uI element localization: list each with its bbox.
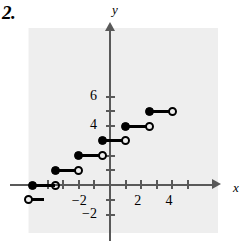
y-tick: [106, 155, 115, 157]
y-tick-label: 6: [90, 88, 97, 104]
open-endpoint-dot: [51, 181, 60, 190]
x-axis-arrow-icon: [212, 179, 221, 189]
plot-panel: [28, 28, 218, 233]
closed-endpoint-dot: [98, 136, 107, 145]
x-tick: [78, 180, 80, 189]
x-axis-label: x: [233, 180, 239, 196]
x-tick: [171, 180, 173, 189]
open-endpoint-dot: [98, 151, 107, 160]
closed-endpoint-dot: [51, 166, 60, 175]
open-endpoint-dot: [168, 107, 177, 116]
closed-endpoint-dot: [28, 181, 37, 190]
closed-endpoint-dot: [121, 122, 130, 131]
y-tick-label: 4: [90, 117, 97, 133]
y-tick: [106, 169, 115, 171]
closed-endpoint-dot: [145, 107, 154, 116]
x-tick: [93, 180, 95, 189]
y-tick: [106, 125, 115, 127]
x-tick: [62, 180, 64, 189]
y-tick: [106, 110, 115, 112]
x-tick: [140, 180, 142, 189]
problem-number: 2.: [2, 2, 15, 24]
y-axis-label: y: [112, 2, 118, 18]
y-axis: [109, 24, 111, 241]
y-tick: [106, 199, 115, 201]
x-tick: [125, 180, 127, 189]
y-tick-label: −2: [82, 206, 97, 222]
y-axis-arrow-icon: [105, 22, 115, 31]
x-tick: [187, 180, 189, 189]
open-endpoint-dot: [74, 166, 83, 175]
y-tick: [106, 96, 115, 98]
x-tick: [156, 180, 158, 189]
x-tick-label: 2: [134, 193, 141, 209]
x-tick-label: 4: [165, 193, 172, 209]
y-tick: [106, 214, 115, 216]
open-endpoint-dot: [145, 122, 154, 131]
figure: 2. x y −22464−2: [0, 0, 246, 244]
